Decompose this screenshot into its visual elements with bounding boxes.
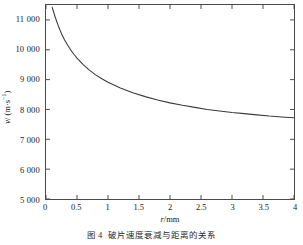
y-tick-label: 6 000 — [20, 166, 40, 175]
x-tick-label: 3 — [230, 203, 234, 212]
x-tick-label: 1 — [105, 203, 109, 212]
figure-number: 图 4 — [87, 231, 102, 240]
y-axis-variable: v — [2, 120, 12, 124]
x-tick-label: 0 — [43, 203, 47, 212]
x-tick-label: 2 — [168, 203, 172, 212]
x-axis-unit: /mm — [164, 214, 180, 224]
y-tick-label: 5 000 — [20, 196, 40, 205]
x-tick-label: 4 — [293, 203, 297, 212]
velocity-decay-curve — [52, 7, 294, 117]
x-axis-ticks — [46, 5, 294, 199]
y-axis-unit-close: ) — [2, 91, 12, 94]
figure-container: 5 0006 0007 0008 0009 00010 00011 000 v/… — [0, 0, 303, 245]
x-tick-label: 2.5 — [196, 203, 207, 212]
x-tick-label: 0.5 — [71, 203, 82, 212]
y-axis-title: v/ (m·s−1) — [1, 78, 11, 136]
plot-svg — [46, 5, 294, 199]
y-tick-label: 8 000 — [20, 105, 40, 114]
x-axis-title: r/mm — [45, 215, 295, 224]
y-axis-unit: / (m·s — [2, 100, 12, 120]
y-tick-label: 10 000 — [15, 45, 40, 54]
y-axis-ticks — [46, 20, 294, 199]
plot-area — [45, 4, 295, 200]
y-tick-label: 9 000 — [20, 75, 40, 84]
x-tick-label: 3.5 — [258, 203, 269, 212]
figure-caption-text: 破片速度衰减与距离的关系 — [108, 231, 216, 240]
y-axis-exponent: −1 — [1, 93, 7, 100]
y-tick-label: 7 000 — [20, 135, 40, 144]
y-tick-label: 11 000 — [16, 15, 40, 24]
x-tick-label: 1.5 — [133, 203, 144, 212]
figure-caption: 图 4破片速度衰减与距离的关系 — [0, 231, 303, 240]
